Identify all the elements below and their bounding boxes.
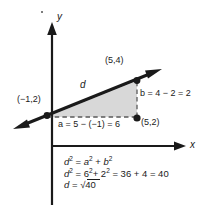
dot-point-left (44, 112, 51, 119)
dot-point-upper-right (134, 77, 141, 84)
point-label-neg1-2: (−1,2) (17, 95, 41, 104)
leg-b-label: b = 4 − 2 = 2 (140, 89, 191, 98)
x-axis-label: x (190, 140, 195, 150)
line-left-arrowhead (13, 120, 30, 130)
point-label-5-2: (5,2) (141, 118, 160, 127)
y-axis-arrowhead (47, 22, 57, 35)
dot-point-lower-right (133, 114, 140, 121)
line-right-arrowhead (145, 69, 162, 79)
equations-block: d2 = a2 + b2 d2 = 62+ 22 = 36 + 4 = 40 d… (64, 156, 169, 191)
equation-line-1: d2 = a2 + b2 (64, 156, 169, 168)
x-axis-arrowhead (174, 142, 186, 151)
hypotenuse-label-d: d (80, 80, 86, 90)
point-label-5-4: (5,4) (105, 56, 124, 65)
equation-line-2: d2 = 62+ 22 = 36 + 4 = 40 (64, 168, 169, 180)
speck-artifact (41, 11, 43, 13)
equation-line-3: d = √40 (64, 179, 169, 191)
y-axis-label: y (57, 12, 62, 22)
leg-a-label: a = 5 − (−1) = 6 (58, 120, 120, 129)
right-triangle-fill (47, 81, 137, 117)
